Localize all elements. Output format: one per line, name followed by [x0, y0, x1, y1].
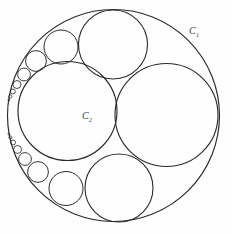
- circle-packing-diagram: C1C2: [0, 0, 232, 234]
- inner-circle-label-subscript: 2: [89, 117, 92, 123]
- outer-circle-label-base: C: [189, 25, 196, 36]
- outer-circle-label-subscript: 1: [196, 32, 199, 38]
- figure-canvas: C1C2: [0, 0, 232, 234]
- inner-circle-label-base: C: [82, 110, 89, 121]
